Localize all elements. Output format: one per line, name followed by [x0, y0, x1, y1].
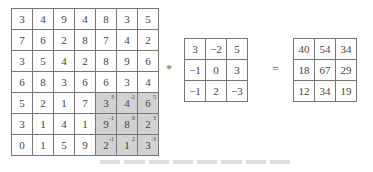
matrix-cell: 6 [33, 30, 54, 51]
matrix-cell: 4 [33, 9, 54, 30]
matrix-cell: 6 [96, 72, 117, 93]
matrix-cell: 1 [54, 93, 75, 114]
matrix-cell: 9 [75, 135, 96, 156]
matrix-cell: 12 [294, 81, 315, 102]
matrix-row: −12−3 [185, 81, 248, 102]
matrix-cell: 3 [54, 72, 75, 93]
matrix-cell: 54 [315, 39, 336, 60]
matrix-row: 405434 [294, 39, 357, 60]
matrix-cell: −1 [185, 60, 206, 81]
matrix-cell: −2 [206, 39, 227, 60]
matrix-cell: 7 [96, 30, 117, 51]
kernel-weight-superscript: -1 [109, 136, 114, 142]
matrix-cell: 4 [75, 9, 96, 30]
matrix-cell: −1 [185, 81, 206, 102]
matrix-cell: 7 [75, 93, 96, 114]
matrix-cell: 1 [75, 114, 96, 135]
matrix-cell: 3 [12, 114, 33, 135]
matrix-row: 7628742 [12, 30, 159, 51]
matrix-cell: 4 [138, 72, 159, 93]
matrix-cell: −3 [227, 81, 248, 102]
matrix-cell: 3 [12, 9, 33, 30]
matrix-cell: 4 [54, 51, 75, 72]
result-matrix: 405434186729123419 [293, 38, 357, 102]
matrix-cell: 4 [117, 30, 138, 51]
matrix-cell: 4-2 [117, 93, 138, 114]
matrix-row: 123419 [294, 81, 357, 102]
matrix-cell: 2 [138, 30, 159, 51]
matrix-cell: 2 [54, 30, 75, 51]
matrix-row: 01592-1123-3 [12, 135, 159, 156]
input-matrix: 34948357628742354289668366345217334-2653… [11, 8, 159, 156]
matrix-cell: 9 [117, 51, 138, 72]
matrix-cell: 12 [117, 135, 138, 156]
matrix-cell: 0 [206, 60, 227, 81]
matrix-cell: 67 [315, 60, 336, 81]
kernel-weight-superscript: -2 [130, 94, 135, 100]
matrix-cell: 9 [54, 9, 75, 30]
matrix-cell: 3 [117, 72, 138, 93]
matrix-cell: 23 [138, 114, 159, 135]
matrix-cell: 5 [12, 93, 33, 114]
kernel-weight-superscript: 5 [153, 94, 156, 100]
matrix-row: 186729 [294, 60, 357, 81]
matrix-cell: 7 [12, 30, 33, 51]
matrix-row: 3542896 [12, 51, 159, 72]
matrix-cell: 6 [75, 72, 96, 93]
kernel-weight-superscript: 0 [132, 115, 135, 121]
matrix-cell: 3 [12, 51, 33, 72]
matrix-cell: 2-1 [96, 135, 117, 156]
kernel-matrix: 3−25−103−12−3 [184, 38, 248, 102]
matrix-cell: 29 [336, 60, 357, 81]
matrix-cell: 1 [33, 135, 54, 156]
matrix-cell: 6 [138, 51, 159, 72]
equals-operator: = [272, 62, 279, 77]
matrix-cell: 5 [54, 135, 75, 156]
matrix-cell: 3-3 [138, 135, 159, 156]
matrix-cell: 8 [75, 30, 96, 51]
matrix-row: 6836634 [12, 72, 159, 93]
matrix-cell: 2 [206, 81, 227, 102]
matrix-cell: 34 [336, 39, 357, 60]
matrix-cell: 3 [227, 60, 248, 81]
matrix-cell: 5 [33, 51, 54, 72]
matrix-cell: 18 [294, 60, 315, 81]
matrix-cell: 3 [117, 9, 138, 30]
convolution-operator: * [166, 62, 172, 77]
matrix-cell: 8 [33, 72, 54, 93]
matrix-row: 31419-18023 [12, 114, 159, 135]
matrix-cell: 2 [75, 51, 96, 72]
matrix-cell: 80 [117, 114, 138, 135]
matrix-row: 3494835 [12, 9, 159, 30]
matrix-row: 5217334-265 [12, 93, 159, 114]
matrix-cell: 0 [12, 135, 33, 156]
kernel-weight-superscript: -1 [109, 115, 114, 121]
kernel-weight-superscript: 3 [153, 115, 156, 121]
matrix-cell: 5 [138, 9, 159, 30]
matrix-cell: 1 [33, 114, 54, 135]
kernel-weight-superscript: 2 [132, 136, 135, 142]
matrix-cell: 34 [315, 81, 336, 102]
matrix-cell: 8 [96, 51, 117, 72]
matrix-cell: 4 [54, 114, 75, 135]
matrix-cell: 40 [294, 39, 315, 60]
figure-caption [100, 159, 290, 165]
kernel-weight-superscript: 3 [111, 94, 114, 100]
matrix-cell: 33 [96, 93, 117, 114]
matrix-cell: 19 [336, 81, 357, 102]
matrix-row: −103 [185, 60, 248, 81]
matrix-cell: 8 [96, 9, 117, 30]
matrix-cell: 2 [33, 93, 54, 114]
matrix-cell: 6 [12, 72, 33, 93]
matrix-cell: 9-1 [96, 114, 117, 135]
matrix-cell: 65 [138, 93, 159, 114]
matrix-cell: 5 [227, 39, 248, 60]
matrix-cell: 3 [185, 39, 206, 60]
matrix-row: 3−25 [185, 39, 248, 60]
kernel-weight-superscript: -3 [151, 136, 156, 142]
